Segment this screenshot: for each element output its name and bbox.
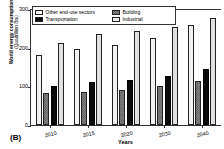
bar-2030-series-0 <box>150 38 156 125</box>
bar-group <box>36 10 64 125</box>
legend-item-building: Building <box>112 10 173 16</box>
legend-label-building: Building <box>122 10 140 16</box>
legend-label-transportation: Transportation <box>46 17 78 23</box>
bar-2015-series-1 <box>81 92 87 125</box>
x-axis-label: Years <box>30 139 221 145</box>
bar-group <box>74 10 102 125</box>
y-tick-mark <box>28 49 31 50</box>
light-gray-swatch-icon <box>112 17 120 22</box>
bar-2040-series-3 <box>210 18 216 125</box>
bar-2020-series-3 <box>134 31 140 125</box>
bar-group <box>150 10 178 125</box>
bar-2030-series-3 <box>172 27 178 125</box>
y-tick-mark <box>28 10 31 11</box>
y-tick-label: 0 <box>15 123 28 128</box>
bar-2040-series-1 <box>195 81 201 125</box>
legend-item-transportation: Transportation <box>35 17 112 23</box>
bar-2010-series-3 <box>58 43 64 125</box>
plot-inner: 010020030020102015202020302040 <box>31 10 221 125</box>
bar-2040-series-0 <box>188 25 194 125</box>
figure-panel-b: World energy consumption (Quadrillion Bt… <box>0 0 224 149</box>
y-tick-mark <box>28 87 31 88</box>
x-tick-mark <box>164 125 165 128</box>
chart-legend: Other end-use sectors Building Transport… <box>32 6 176 25</box>
y-tick-mark <box>28 126 31 127</box>
bar-2015-series-2 <box>89 82 95 125</box>
y-tick-label: 100 <box>15 85 28 90</box>
x-tick-mark <box>50 125 51 128</box>
bar-2010-series-1 <box>43 93 49 125</box>
bar-2040-series-2 <box>203 69 209 125</box>
open-white-swatch-icon <box>35 10 43 15</box>
dark-hatched-swatch-icon <box>112 10 120 15</box>
bar-2030-series-2 <box>165 76 171 125</box>
y-tick-label: 200 <box>15 46 28 51</box>
legend-item-other-end-use-sectors: Other end-use sectors <box>35 10 112 16</box>
bar-2020-series-1 <box>119 90 125 125</box>
bar-group <box>112 10 140 125</box>
bar-2020-series-2 <box>127 80 133 125</box>
bar-2010-series-0 <box>36 55 42 125</box>
legend-label-industrial: Industrial <box>122 17 142 23</box>
bar-2015-series-3 <box>96 34 102 125</box>
panel-label: (B) <box>10 133 21 142</box>
legend-row-1: Other end-use sectors Building <box>35 9 173 17</box>
bar-2030-series-1 <box>157 86 163 125</box>
solid-black-swatch-icon <box>35 17 43 22</box>
bar-group <box>188 10 216 125</box>
legend-label-other-end-use-sectors: Other end-use sectors <box>46 10 95 16</box>
bar-2010-series-2 <box>51 86 57 125</box>
legend-row-2: Transportation Industrial <box>35 16 173 24</box>
bar-2020-series-0 <box>112 45 118 125</box>
bar-2015-series-0 <box>74 49 80 125</box>
legend-item-industrial: Industrial <box>112 17 173 23</box>
y-tick-label: 300 <box>15 7 28 12</box>
x-tick-mark <box>126 125 127 128</box>
plot-area: 010020030020102015202020302040 <box>30 9 221 126</box>
x-tick-mark <box>88 125 89 128</box>
x-tick-mark <box>202 125 203 128</box>
